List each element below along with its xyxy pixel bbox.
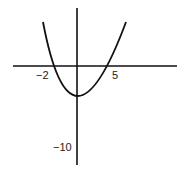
parabola-graph (0, 0, 186, 172)
x-tick-label-5: 5 (112, 70, 118, 81)
parabola-curve (43, 22, 126, 96)
y-tick-label-neg10: −10 (53, 142, 72, 153)
x-tick-label-neg2: −2 (36, 70, 49, 81)
